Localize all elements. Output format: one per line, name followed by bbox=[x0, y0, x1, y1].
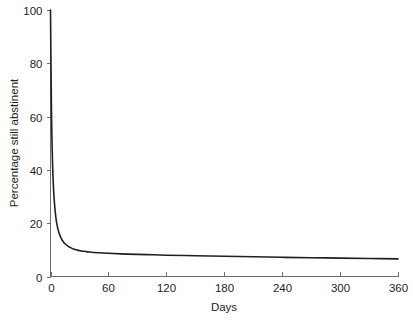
chart-background bbox=[0, 0, 413, 320]
x-tick-label: 120 bbox=[157, 282, 176, 294]
x-tick-label: 0 bbox=[48, 282, 54, 294]
y-axis-title: Percentage still abstinent bbox=[8, 78, 20, 207]
y-tick-label: 100 bbox=[23, 5, 42, 17]
x-axis-title: Days bbox=[211, 301, 237, 313]
x-tick-label: 60 bbox=[102, 282, 115, 294]
y-tick-label: 80 bbox=[30, 58, 43, 70]
y-tick-label: 60 bbox=[30, 112, 43, 124]
y-tick-label: 0 bbox=[36, 272, 42, 284]
abstinence-decay-chart: 020406080100 060120180240300360 Days Per… bbox=[0, 0, 413, 320]
y-tick-label: 40 bbox=[30, 165, 43, 177]
x-tick-label: 360 bbox=[389, 282, 408, 294]
x-tick-label: 240 bbox=[273, 282, 292, 294]
chart-figure: 020406080100 060120180240300360 Days Per… bbox=[0, 0, 413, 320]
x-tick-label: 300 bbox=[331, 282, 350, 294]
x-tick-label: 180 bbox=[215, 282, 234, 294]
y-tick-label: 20 bbox=[30, 218, 43, 230]
